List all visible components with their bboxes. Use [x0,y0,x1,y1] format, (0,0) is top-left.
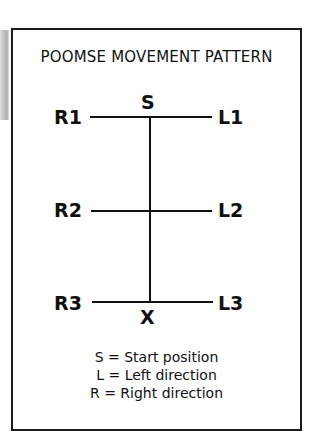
legend-item-right: R = Right direction [13,384,300,402]
center-line [149,116,151,302]
page-edge-shadow [0,30,10,120]
row1-line [90,116,212,118]
row3-left-label: L3 [218,292,243,314]
row1-right-label: R1 [54,106,82,128]
row2-left-label: L2 [218,199,243,221]
legend: S = Start position L = Left direction R … [13,348,300,402]
legend-item-left: L = Left direction [13,366,300,384]
start-label: S [141,91,155,113]
legend-item-start: S = Start position [13,348,300,366]
row3-right-label: R3 [54,292,82,314]
end-label: X [140,306,155,328]
diagram-frame: POOMSE MOVEMENT PATTERN S R1 L1 R2 L2 R3… [11,28,302,431]
row2-right-label: R2 [54,199,82,221]
row3-line [92,301,213,303]
diagram-title: POOMSE MOVEMENT PATTERN [13,48,300,66]
row2-line [91,210,212,212]
row1-left-label: L1 [218,106,243,128]
